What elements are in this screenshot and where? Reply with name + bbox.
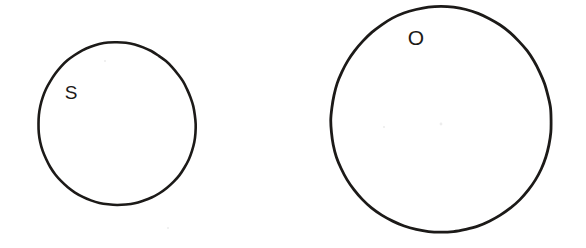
two-circles-figure: S O	[0, 0, 586, 248]
small-circle-label: S	[65, 82, 78, 103]
large-circle-label: O	[408, 26, 424, 49]
figure-background	[0, 0, 586, 248]
diagram-canvas: S O	[0, 0, 586, 248]
